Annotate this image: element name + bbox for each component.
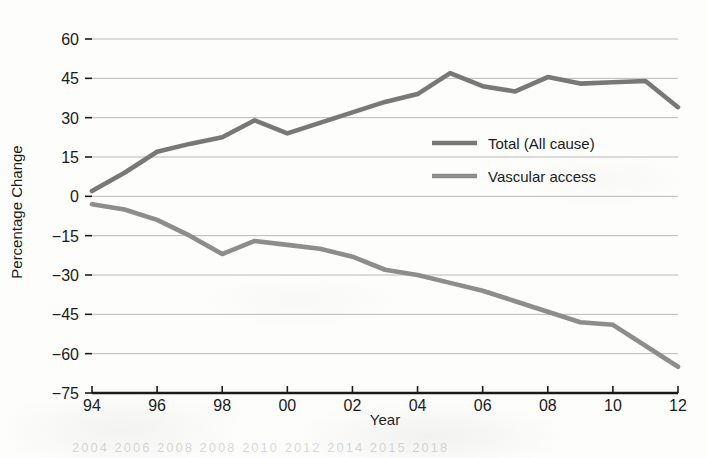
x-axis-tick-label: 08 bbox=[539, 397, 557, 414]
y-axis-tick-labels: 604530150−15−30−45−60−75 bbox=[52, 31, 79, 402]
y-axis-tick-label: 45 bbox=[61, 70, 79, 87]
y-axis-title: Percentage Change bbox=[8, 145, 25, 278]
y-axis-tick-label: −45 bbox=[52, 306, 79, 323]
y-axis-tick-label: 0 bbox=[70, 188, 79, 205]
y-axis-tick-label: −75 bbox=[52, 385, 79, 402]
x-axis-title: Year bbox=[370, 411, 400, 428]
x-axis-group bbox=[92, 386, 678, 393]
gridlines-group bbox=[85, 39, 678, 393]
legend-label-total: Total (All cause) bbox=[488, 135, 595, 152]
x-axis-tick-label: 04 bbox=[409, 397, 427, 414]
legend-label-vascular: Vascular access bbox=[488, 168, 596, 185]
y-axis-tick-label: 15 bbox=[61, 149, 79, 166]
x-axis-tick-label: 98 bbox=[213, 397, 231, 414]
x-axis-tick-label: 12 bbox=[669, 397, 687, 414]
x-axis-tick-label: 96 bbox=[148, 397, 166, 414]
chart-legend: Total (All cause) Vascular access bbox=[432, 135, 596, 185]
y-axis-tick-label: 60 bbox=[61, 31, 79, 48]
y-axis-tick-label: 30 bbox=[61, 110, 79, 127]
chart-figure: 604530150−15−30−45−60−75 949698000204060… bbox=[0, 0, 707, 458]
y-axis-tick-label: −30 bbox=[52, 267, 79, 284]
x-axis-tick-label: 00 bbox=[278, 397, 296, 414]
data-series-line-vascular bbox=[92, 204, 678, 367]
x-axis-tick-label: 02 bbox=[344, 397, 362, 414]
x-axis-tick-label: 94 bbox=[83, 397, 101, 414]
y-axis-tick-label: −15 bbox=[52, 228, 79, 245]
percentage-change-line-chart: 604530150−15−30−45−60−75 949698000204060… bbox=[0, 0, 707, 458]
y-axis-tick-label: −60 bbox=[52, 346, 79, 363]
x-axis-tick-label: 06 bbox=[474, 397, 492, 414]
data-series-group bbox=[92, 73, 678, 367]
x-axis-tick-label: 10 bbox=[604, 397, 622, 414]
